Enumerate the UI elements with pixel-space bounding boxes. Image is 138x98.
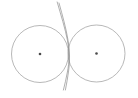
geometry-figure	[0, 0, 138, 98]
right-circle-center-dot	[95, 52, 98, 55]
diagram-canvas	[0, 0, 138, 98]
left-circle-center-dot	[39, 53, 42, 56]
secondary-arc	[59, 3, 70, 90]
